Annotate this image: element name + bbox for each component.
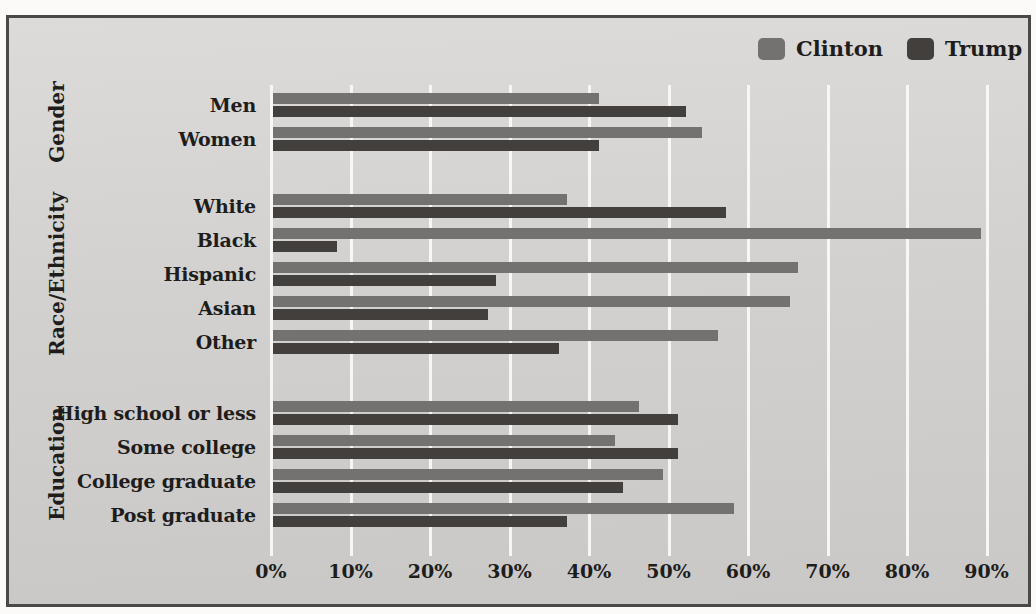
x-axis-tick-40: 40%: [554, 560, 624, 582]
bar-trump-white: [273, 207, 726, 218]
x-axis-tick-90: 90%: [952, 560, 1022, 582]
row-label-white: White: [40, 194, 256, 219]
trump-swatch-icon: [907, 38, 934, 60]
bar-clinton-post-graduate: [273, 503, 734, 514]
legend: Clinton Trump: [758, 36, 1022, 61]
gridline-80: [906, 85, 909, 556]
bar-clinton-asian: [273, 296, 790, 307]
bar-trump-hispanic: [273, 275, 496, 286]
row-label-post-graduate: Post graduate: [40, 503, 256, 528]
x-axis-tick-0: 0%: [236, 560, 306, 582]
bar-clinton-some-college: [273, 435, 615, 446]
x-axis-tick-30: 30%: [475, 560, 545, 582]
scanned-exit-poll-chart-page: Clinton Trump 0%10%20%30%40%50%60%70%80%…: [0, 0, 1036, 614]
row-label-hispanic: Hispanic: [40, 262, 256, 287]
row-label-men: Men: [40, 93, 256, 118]
row-label-asian: Asian: [40, 296, 256, 321]
bar-clinton-women: [273, 127, 702, 138]
legend-item-trump: Trump: [907, 36, 1022, 61]
bar-trump-asian: [273, 309, 488, 320]
bar-trump-high-school-or-less: [273, 414, 678, 425]
bar-trump-men: [273, 106, 686, 117]
row-label-high-school-or-less: High school or less: [40, 401, 256, 426]
bar-trump-other: [273, 343, 559, 354]
x-axis-tick-50: 50%: [634, 560, 704, 582]
x-axis-tick-80: 80%: [872, 560, 942, 582]
gridline-90: [986, 85, 989, 556]
x-axis-tick-70: 70%: [793, 560, 863, 582]
gridline-70: [827, 85, 830, 556]
plot-area: 0%10%20%30%40%50%60%70%80%90%MenWomenGen…: [0, 0, 1036, 614]
bar-clinton-other: [273, 330, 718, 341]
bar-trump-post-graduate: [273, 516, 567, 527]
gridline-60: [747, 85, 750, 556]
row-label-college-graduate: College graduate: [40, 469, 256, 494]
legend-label-clinton: Clinton: [796, 36, 883, 61]
bar-clinton-white: [273, 194, 567, 205]
row-label-black: Black: [40, 228, 256, 253]
bar-clinton-hispanic: [273, 262, 798, 273]
category-label-race-ethnicity: Race/Ethnicity: [44, 164, 70, 384]
legend-label-trump: Trump: [945, 36, 1022, 61]
clinton-swatch-icon: [758, 38, 785, 60]
category-label-education: Education: [44, 354, 70, 574]
bar-clinton-college-graduate: [273, 469, 663, 480]
bar-trump-black: [273, 241, 337, 252]
legend-item-clinton: Clinton: [758, 36, 883, 61]
row-label-other: Other: [40, 330, 256, 355]
bar-trump-women: [273, 140, 599, 151]
row-label-women: Women: [40, 127, 256, 152]
x-axis-tick-20: 20%: [395, 560, 465, 582]
bar-trump-college-graduate: [273, 482, 623, 493]
bar-clinton-men: [273, 93, 599, 104]
gridline-50: [668, 85, 671, 556]
bar-clinton-black: [273, 228, 981, 239]
x-axis-tick-60: 60%: [713, 560, 783, 582]
bar-trump-some-college: [273, 448, 678, 459]
bar-clinton-high-school-or-less: [273, 401, 639, 412]
row-label-some-college: Some college: [40, 435, 256, 460]
x-axis-tick-10: 10%: [316, 560, 386, 582]
